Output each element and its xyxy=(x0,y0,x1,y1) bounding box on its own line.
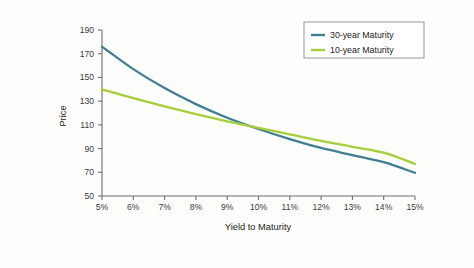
y-tick-label-50: 50 xyxy=(84,191,94,201)
x-tick-label-14%: 14% xyxy=(375,202,393,212)
x-axis-title: Yield to Maturity xyxy=(225,222,292,232)
series-line-1 xyxy=(102,89,415,164)
y-tick-label-190: 190 xyxy=(80,25,95,35)
y-tick-label-130: 130 xyxy=(80,96,95,106)
x-tick-label-10%: 10% xyxy=(250,202,268,212)
y-axis-title: Price xyxy=(58,105,68,126)
y-axis-ticks: 507090110130150170190 xyxy=(80,25,102,201)
x-tick-label-12%: 12% xyxy=(312,202,330,212)
legend-label-1: 10-year Maturity xyxy=(330,45,394,55)
bond-price-yield-chart: 507090110130150170190 5%6%7%8%9%10%11%12… xyxy=(0,0,474,268)
y-tick-label-110: 110 xyxy=(80,120,94,130)
x-tick-label-8%: 8% xyxy=(190,202,203,212)
y-tick-label-70: 70 xyxy=(84,167,94,177)
x-axis-ticks: 5%6%7%8%9%10%11%12%13%14%15% xyxy=(96,196,424,212)
y-tick-label-90: 90 xyxy=(84,144,94,154)
x-tick-label-7%: 7% xyxy=(158,202,171,212)
x-tick-label-15%: 15% xyxy=(406,202,424,212)
x-tick-label-13%: 13% xyxy=(344,202,362,212)
x-axis: 5%6%7%8%9%10%11%12%13%14%15% xyxy=(96,196,424,212)
y-tick-label-170: 170 xyxy=(80,49,95,59)
legend: 30-year Maturity10-year Maturity xyxy=(304,22,424,58)
x-tick-label-6%: 6% xyxy=(127,202,140,212)
y-tick-label-150: 150 xyxy=(80,72,95,82)
series-line-0 xyxy=(102,47,415,173)
series-group xyxy=(102,47,415,173)
chart-page: 507090110130150170190 5%6%7%8%9%10%11%12… xyxy=(0,0,474,268)
x-tick-label-5%: 5% xyxy=(96,202,109,212)
y-axis: 507090110130150170190 xyxy=(80,25,102,201)
x-tick-label-11%: 11% xyxy=(282,202,299,212)
x-tick-label-9%: 9% xyxy=(221,202,234,212)
legend-label-0: 30-year Maturity xyxy=(330,30,394,40)
